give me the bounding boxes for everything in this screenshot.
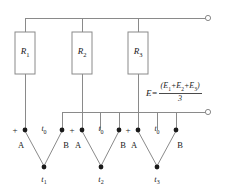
tc3-leg-b (157, 131, 176, 166)
node-dot-a2 (80, 128, 85, 133)
bottom-output-terminal-icon[interactable] (205, 109, 210, 114)
thermocouple-circuit-diagram: R1 R2 R3 E= (E1+E2+E3) 3 + + + t0 t0 t0 … (0, 0, 227, 190)
leg-label-b2: B (120, 141, 126, 150)
junction-dot-t2 (99, 165, 104, 170)
resistor-label-r2: R2 (78, 47, 87, 58)
junction-dot-t3 (155, 165, 160, 170)
formula-numerator: (E1+E2+E3) (159, 82, 202, 93)
junction-dot-t1 (42, 165, 47, 170)
averaging-formula: E= (E1+E2+E3) 3 (146, 82, 202, 104)
resistor-label-r1: R1 (21, 47, 30, 58)
polarity-plus-3: + (125, 126, 130, 135)
reference-temp-label-3: t0 (154, 125, 159, 135)
junction-temp-label-t2: t2 (98, 175, 103, 186)
node-dot-b3 (174, 128, 179, 133)
tc1-leg-b (44, 131, 62, 166)
leg-label-a1: A (18, 141, 24, 150)
junction-temp-label-t3: t3 (154, 175, 159, 186)
resistor-label-r3: R3 (134, 47, 143, 58)
polarity-plus-2: + (69, 126, 74, 135)
reference-temp-label-1: t0 (41, 125, 46, 135)
leg-label-b3: B (177, 141, 183, 150)
node-dot-b1 (60, 128, 65, 133)
tc2-leg-a (82, 131, 101, 166)
node-dot-b2 (117, 128, 122, 133)
tc2-leg-b (101, 131, 119, 166)
node-dot-a3 (136, 128, 141, 133)
leg-label-b1: B (63, 141, 69, 150)
tc1-leg-a (25, 131, 44, 166)
formula-denominator: 3 (159, 93, 202, 103)
formula-lhs: E= (146, 88, 158, 98)
leg-label-a3: A (131, 141, 137, 150)
polarity-plus-1: + (12, 126, 17, 135)
top-output-terminal-icon[interactable] (205, 15, 210, 20)
node-dot-a1 (23, 128, 28, 133)
junction-temp-label-t1: t1 (41, 175, 46, 186)
leg-label-a2: A (75, 141, 81, 150)
reference-temp-label-2: t0 (98, 125, 103, 135)
formula-fraction: (E1+E2+E3) 3 (159, 82, 202, 104)
tc3-leg-a (138, 131, 157, 166)
